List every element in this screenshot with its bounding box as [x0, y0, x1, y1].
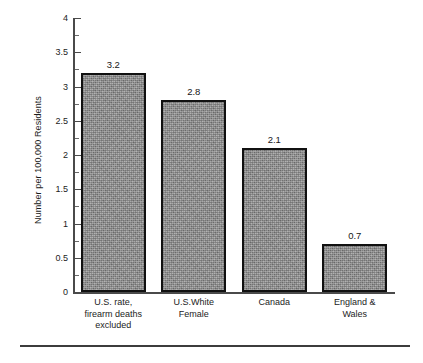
- bar-chart-figure: Number per 100,000 Residents 00.511.522.…: [0, 0, 423, 363]
- x-axis-category-label-line: England &: [315, 297, 396, 309]
- y-minor-tick-mark: [75, 138, 79, 139]
- y-minor-tick-mark: [75, 35, 79, 36]
- x-axis-category-label: U.S.WhiteFemale: [154, 297, 235, 320]
- bar-group: 3.2: [81, 18, 146, 292]
- x-axis-category-label: U.S. rate,firearm deathsexcluded: [73, 297, 154, 332]
- y-minor-tick-mark: [75, 206, 79, 207]
- bar-value-label: 2.8: [161, 86, 226, 97]
- x-axis-category-label-line: Female: [154, 309, 235, 321]
- y-tick-label: 4: [63, 13, 68, 23]
- x-axis-category-label-line: U.S.White: [154, 297, 235, 309]
- y-tick-mark: [75, 292, 81, 293]
- bar-value-label: 3.2: [81, 59, 146, 70]
- bar: [242, 148, 307, 292]
- y-tick-label: 3.5: [55, 47, 68, 57]
- x-axis-category-label-line: excluded: [73, 320, 154, 332]
- bar: [322, 244, 387, 292]
- x-axis-category-label-line: U.S. rate,: [73, 297, 154, 309]
- y-minor-tick-mark: [75, 275, 79, 276]
- bottom-divider-rule: [20, 345, 410, 347]
- x-axis-category-label-line: Canada: [234, 297, 315, 309]
- bar: [81, 73, 146, 292]
- bar-group: 2.8: [161, 18, 226, 292]
- bar: [161, 100, 226, 292]
- y-tick-label: 1.5: [55, 184, 68, 194]
- bar-group: 2.1: [242, 18, 307, 292]
- bar-value-label: 0.7: [322, 230, 387, 241]
- y-tick-label: 2.5: [55, 116, 68, 126]
- x-axis-category-label: England &Wales: [315, 297, 396, 320]
- y-axis-title: Number per 100,000 Residents: [33, 60, 43, 260]
- plot-area: 00.511.522.533.54 3.22.82.10.7: [73, 18, 395, 292]
- y-minor-tick-mark: [75, 104, 79, 105]
- y-minor-tick-mark: [75, 241, 79, 242]
- x-axis-category-label-line: firearm deaths: [73, 309, 154, 321]
- y-tick-label: 2: [63, 150, 68, 160]
- bar-value-label: 2.1: [242, 134, 307, 145]
- x-axis-category-label-line: Wales: [315, 309, 396, 321]
- x-axis-category-label: Canada: [234, 297, 315, 309]
- y-minor-tick-mark: [75, 172, 79, 173]
- y-tick-label: 0.5: [55, 253, 68, 263]
- x-axis-line: [73, 292, 395, 294]
- y-tick-label: 0: [63, 287, 68, 297]
- y-minor-tick-mark: [75, 69, 79, 70]
- y-tick-label: 3: [63, 82, 68, 92]
- bar-group: 0.7: [322, 18, 387, 292]
- y-tick-label: 1: [63, 219, 68, 229]
